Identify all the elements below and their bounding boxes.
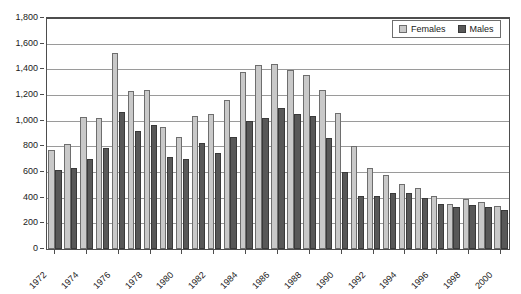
y-tick-mark [40, 17, 44, 18]
y-tick-label: 600 [23, 166, 38, 176]
bar-group [334, 18, 350, 249]
bar-group [159, 18, 175, 249]
bar-group [254, 18, 270, 249]
chart-legend: Females Males [392, 20, 501, 38]
x-tick-mark [500, 250, 501, 254]
bar-females [351, 146, 357, 249]
bar-females [80, 117, 86, 249]
bar-males [501, 210, 507, 249]
legend-entry-females: Females [399, 24, 446, 34]
bar-females [144, 90, 150, 249]
bar-group [143, 18, 159, 249]
x-tick-label: 1978 [123, 270, 144, 291]
bar-males [215, 153, 221, 249]
bar-males [230, 137, 236, 249]
bar-females [112, 53, 118, 249]
x-tick-mark [181, 250, 182, 254]
bar-group [79, 18, 95, 249]
bar-females [463, 199, 469, 249]
bar-group [286, 18, 302, 249]
bar-males [469, 205, 475, 249]
bars-layer [47, 18, 509, 249]
x-tick-label: 1980 [155, 270, 176, 291]
bar-females [271, 64, 277, 249]
x-tick-label: 1990 [314, 270, 335, 291]
bar-males [119, 112, 125, 249]
legend-label-males: Males [470, 24, 494, 34]
y-tick-mark [40, 68, 44, 69]
y-tick-mark [40, 94, 44, 95]
x-tick-label: 1982 [186, 270, 207, 291]
bar-males [310, 116, 316, 249]
x-tick-mark [277, 250, 278, 254]
x-axis: 1972197419761978198019821984198619881990… [46, 250, 510, 294]
legend-entry-males: Males [458, 24, 494, 34]
bar-group [127, 18, 143, 249]
legend-label-females: Females [411, 24, 446, 34]
bar-group [238, 18, 254, 249]
bar-females [160, 127, 166, 249]
bar-males [390, 193, 396, 249]
bar-males [342, 172, 348, 249]
x-tick-mark [86, 250, 87, 254]
y-tick-mark [40, 120, 44, 121]
bar-females [478, 202, 484, 249]
bar-group [477, 18, 493, 249]
bar-males [262, 118, 268, 249]
y-tick-label: 400 [23, 192, 38, 202]
bar-group [397, 18, 413, 249]
x-tick-mark [213, 250, 214, 254]
x-tick-mark [373, 250, 374, 254]
bar-group [206, 18, 222, 249]
bar-group [63, 18, 79, 249]
bar-group [302, 18, 318, 249]
bar-males [278, 108, 284, 249]
x-tick-label: 1986 [250, 270, 271, 291]
x-tick-mark [404, 250, 405, 254]
x-tick-label: 1974 [59, 270, 80, 291]
bar-males [183, 159, 189, 249]
bar-males [406, 193, 412, 249]
bar-group [95, 18, 111, 249]
bar-group [429, 18, 445, 249]
x-tick-label: 1996 [409, 270, 430, 291]
x-tick-mark [245, 250, 246, 254]
bar-females [192, 116, 198, 249]
x-tick-label: 1972 [27, 270, 48, 291]
bar-males [422, 198, 428, 249]
bar-females [367, 168, 373, 249]
bar-group [382, 18, 398, 249]
bar-males [151, 125, 157, 249]
y-tick-label: 0 [33, 243, 38, 253]
x-tick-label: 1988 [282, 270, 303, 291]
y-tick-mark [40, 222, 44, 223]
x-tick-label: 1976 [91, 270, 112, 291]
bar-group [270, 18, 286, 249]
x-tick-mark [468, 250, 469, 254]
bar-group [493, 18, 509, 249]
bar-males [438, 204, 444, 249]
bar-chart: 02004006008001,0001,2001,4001,6001,800 1… [0, 0, 521, 294]
bar-females [96, 118, 102, 249]
x-tick-label: 1984 [218, 270, 239, 291]
y-tick-mark [40, 145, 44, 146]
y-tick-label: 1,400 [15, 63, 38, 73]
y-tick-label: 1,000 [15, 115, 38, 125]
x-tick-mark [118, 250, 119, 254]
bar-females [240, 72, 246, 249]
bar-males [71, 168, 77, 249]
x-tick-mark [54, 250, 55, 254]
y-tick-label: 1,600 [15, 38, 38, 48]
bar-males [294, 114, 300, 249]
bar-males [167, 157, 173, 249]
y-tick-label: 200 [23, 217, 38, 227]
bar-group [111, 18, 127, 249]
bar-group [190, 18, 206, 249]
bar-females [128, 91, 134, 249]
y-tick-label: 1,200 [15, 89, 38, 99]
bar-females [64, 144, 70, 249]
y-axis: 02004006008001,0001,2001,4001,6001,800 [0, 0, 44, 251]
male-swatch-icon [458, 25, 466, 33]
y-tick-mark [40, 248, 44, 249]
y-tick-mark [40, 197, 44, 198]
